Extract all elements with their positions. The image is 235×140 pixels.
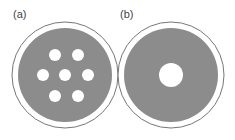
hole [59,69,71,81]
panel-b-holes [159,63,183,87]
panel-b [118,22,224,128]
hole [49,90,61,102]
hole [37,69,49,81]
hole [159,63,183,87]
hole [82,69,94,81]
panel-a [12,22,118,128]
diagram-canvas [0,0,235,140]
hole [49,49,61,61]
hole [72,49,84,61]
hole [72,90,84,102]
